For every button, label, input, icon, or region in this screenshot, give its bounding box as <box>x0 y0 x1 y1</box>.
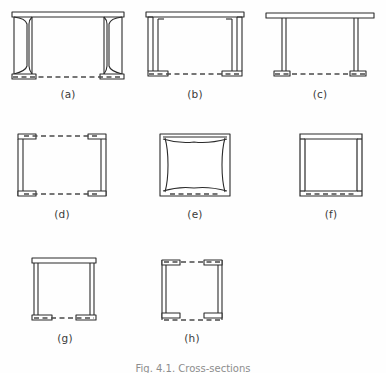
figure-panel-e: (e) <box>152 128 238 232</box>
cross-section-c-drawing <box>262 8 378 88</box>
figure-caption: Fig. 4.1. Cross-sections <box>0 363 386 373</box>
figure-label-b: (b) <box>140 88 250 100</box>
figure-label-g: (g) <box>26 332 104 344</box>
cross-section-g-drawing <box>26 252 104 332</box>
cross-section-e-drawing <box>152 128 238 208</box>
cross-section-h-drawing <box>156 252 228 332</box>
figure-label-a: (a) <box>8 88 128 100</box>
figure-panel-d: (d) <box>12 128 112 232</box>
figure-panel-f: (f) <box>292 128 370 232</box>
figure-label-f: (f) <box>292 208 370 220</box>
figure-page: (a) (b) <box>0 0 386 373</box>
cross-section-a-drawing <box>8 8 128 88</box>
cross-section-b-drawing <box>140 8 250 88</box>
hidden-lines-h <box>164 262 220 320</box>
figure-label-d: (d) <box>12 208 112 220</box>
figure-panel-c: (c) <box>262 8 378 112</box>
hidden-lines-d <box>24 136 100 194</box>
figure-label-e: (e) <box>152 208 238 220</box>
cross-section-f-drawing <box>292 128 370 208</box>
figure-panel-a: (a) <box>8 8 128 112</box>
cross-section-d-drawing <box>12 128 112 208</box>
figure-label-h: (h) <box>156 332 228 344</box>
figure-panel-h: (h) <box>156 252 228 356</box>
figure-panel-b: (b) <box>140 8 250 112</box>
figure-panel-g: (g) <box>26 252 104 356</box>
figure-label-c: (c) <box>262 88 378 100</box>
